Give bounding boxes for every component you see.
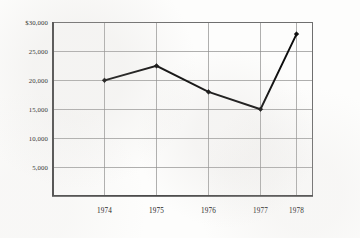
- x-tick-label-3: 1977: [253, 207, 268, 215]
- x-tick-label-0: 1974: [97, 207, 112, 215]
- x-axis-labels: 1974 1975 1976 1977 1978: [97, 207, 304, 215]
- y-tick-label-4: 10,000: [29, 135, 49, 142]
- data-point-1974: [102, 78, 107, 83]
- x-gridlines: [105, 22, 297, 196]
- line-chart: $30,000 25,000 20,000 15,000 10,000 5,00…: [0, 0, 360, 238]
- y-gridlines: [52, 23, 313, 168]
- series-markers: [102, 32, 299, 112]
- series-line: [105, 34, 297, 109]
- y-tick-label-5: 5,000: [32, 164, 48, 171]
- data-series: [102, 32, 299, 112]
- y-tick-label-0: $30,000: [25, 19, 48, 26]
- x-tick-label-1: 1975: [149, 207, 164, 215]
- chart-page: $30,000 25,000 20,000 15,000 10,000 5,00…: [0, 0, 360, 238]
- x-tick-label-2: 1976: [201, 207, 216, 215]
- y-tick-label-2: 20,000: [29, 77, 49, 84]
- y-axis-labels: $30,000 25,000 20,000 15,000 10,000 5,00…: [25, 19, 48, 171]
- y-tick-label-3: 15,000: [29, 106, 49, 113]
- x-tick-label-4: 1978: [289, 207, 304, 215]
- y-tick-label-1: 25,000: [29, 48, 49, 55]
